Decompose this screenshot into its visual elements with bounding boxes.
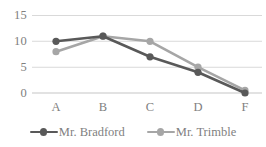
y-axis-labels: 15 10 5 0 — [0, 0, 27, 100]
data-point — [99, 33, 106, 40]
legend-item-mr-trimble[interactable]: Mr. Trimble — [147, 126, 236, 139]
x-tick-label-c: C — [130, 101, 170, 115]
y-tick-label-10: 10 — [0, 35, 27, 48]
chart-legend: Mr. Bradford Mr. Trimble — [0, 122, 266, 142]
x-tick-label-f: F — [225, 101, 265, 115]
legend-item-mr-bradford[interactable]: Mr. Bradford — [30, 126, 125, 139]
data-point — [146, 53, 153, 60]
data-point — [52, 38, 59, 45]
data-point — [52, 48, 59, 55]
line-chart: 15 10 5 0 A B C D F Mr. Bradford Mr. Tri… — [0, 0, 266, 147]
legend-marker-icon-mr-trimble — [147, 127, 175, 138]
data-point — [241, 89, 248, 96]
y-tick-label-0: 0 — [0, 87, 27, 100]
y-tick-label-5: 5 — [0, 61, 27, 74]
x-tick-label-b: B — [83, 101, 123, 115]
x-axis-labels: A B C D F — [0, 101, 266, 119]
legend-marker-icon-mr-bradford — [30, 127, 58, 138]
x-tick-label-a: A — [36, 101, 76, 115]
legend-label-mr-trimble: Mr. Trimble — [176, 126, 236, 139]
y-tick-label-15: 15 — [0, 9, 27, 22]
data-point — [194, 69, 201, 76]
data-point — [146, 38, 153, 45]
legend-label-mr-bradford: Mr. Bradford — [59, 126, 125, 139]
x-tick-label-d: D — [178, 101, 218, 115]
